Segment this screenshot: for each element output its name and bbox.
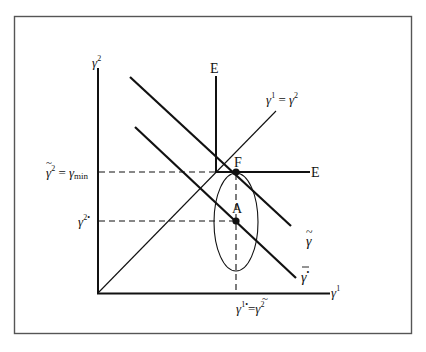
y-axis-label: γ2 bbox=[92, 54, 101, 70]
e-vertical-label: E bbox=[210, 61, 219, 76]
diagonal-line bbox=[98, 111, 276, 293]
upper-parallel-tilde: ~ bbox=[306, 225, 313, 239]
point-f-label: F bbox=[234, 155, 242, 170]
y-tick-lower-label: γ2• bbox=[78, 213, 90, 229]
e-horizontal-label: E bbox=[311, 165, 320, 180]
point-a-label: A bbox=[232, 201, 243, 216]
diagonal-label: γ1 = γ2 bbox=[266, 91, 298, 107]
lower-parallel-label: γ• bbox=[301, 268, 310, 285]
x-tick-tilde: ~ bbox=[262, 292, 268, 304]
x-axis-label: γ1 bbox=[331, 284, 340, 300]
x-tick-label: γ1•=γ2 bbox=[236, 300, 264, 316]
y-tick-upper-tilde: ~ bbox=[46, 156, 52, 168]
point-a bbox=[232, 217, 239, 224]
y-tick-upper-label: γ2 = γmin bbox=[46, 164, 89, 181]
diagram-figure: F A E E γ2 γ1 γ1 = γ2 γ ~ γ• γ2 = γmin ~… bbox=[0, 0, 426, 352]
